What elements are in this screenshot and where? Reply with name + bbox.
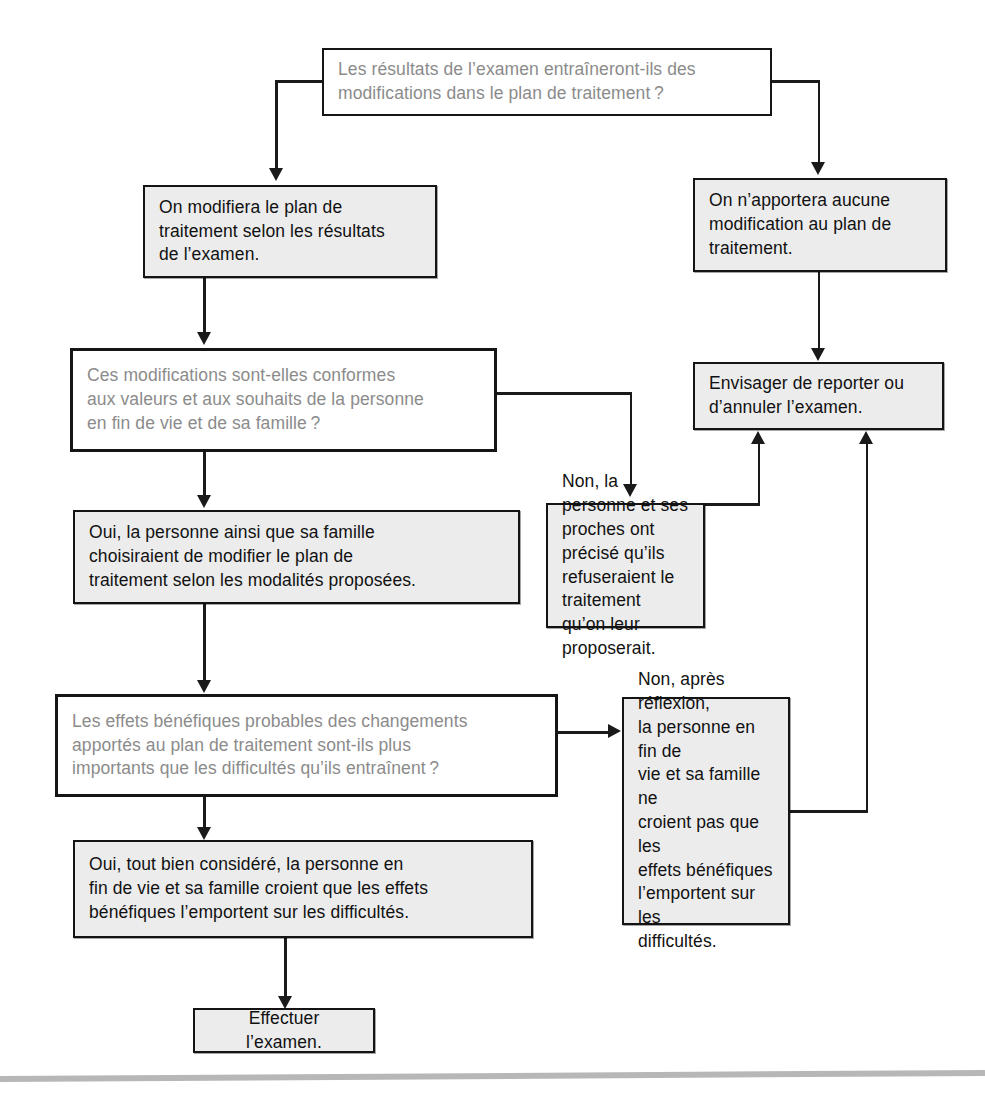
arrowhead-to-aucune-modification — [811, 162, 825, 175]
edge-q2-right-horizontal — [494, 392, 632, 395]
edge-oui-tout-bien-to-effectuer — [284, 938, 287, 998]
edge-oui-choisiraient-to-q3 — [203, 604, 206, 682]
node-answer-aucune-modification[interactable]: On n’apportera aucune modification au pl… — [693, 178, 947, 272]
edge-q3-right-horizontal — [555, 731, 610, 734]
node-answer-aucune-modification-text: On n’apportera aucune modification au pl… — [709, 189, 931, 260]
node-answer-non-apres-reflexion[interactable]: Non, après réflexion, la personne en fin… — [622, 697, 790, 925]
edge-non-refuseraient-to-envisager — [758, 443, 761, 505]
node-answer-modifiera-text: On modifiera le plan de traitement selon… — [159, 196, 421, 267]
node-answer-oui-choisiraient[interactable]: Oui, la personne ainsi que sa famille ch… — [73, 510, 520, 604]
edge-q3-to-oui-tout-bien — [203, 797, 206, 829]
edge-q1-right-horizontal — [769, 80, 820, 83]
arrowhead-to-envisager-left — [751, 431, 765, 444]
node-answer-non-refuseraient[interactable]: Non, la personne et ses proches ont préc… — [546, 503, 705, 628]
arrowhead-to-q2 — [197, 332, 211, 345]
node-answer-non-refuseraient-text: Non, la personne et ses proches ont préc… — [562, 470, 689, 660]
edge-modifiera-to-q2 — [203, 278, 206, 334]
arrowhead-to-envisager-top — [811, 348, 825, 361]
node-answer-effectuer-text: Effectuer l’examen. — [209, 1007, 359, 1055]
arrowhead-to-oui-choisiraient — [197, 495, 211, 508]
node-answer-oui-tout-bien[interactable]: Oui, tout bien considéré, la personne en… — [73, 840, 533, 938]
edge-q1-right-vertical — [818, 80, 821, 164]
edge-q1-left-horizontal — [275, 80, 325, 83]
arrowhead-to-non-apres-reflexion — [608, 724, 621, 738]
node-answer-non-apres-reflexion-text: Non, après réflexion, la personne en fin… — [638, 668, 774, 954]
arrowhead-to-envisager-right — [859, 431, 873, 444]
arrowhead-to-q3 — [197, 680, 211, 693]
edge-q1-left-vertical — [275, 80, 278, 170]
node-question-conformes[interactable]: Ces modifications sont-elles conformes a… — [70, 348, 497, 452]
edge-non-reflexion-to-envisager — [866, 443, 869, 812]
edge-q2-to-oui-choisiraient — [203, 452, 206, 497]
edge-aucune-to-envisager — [818, 272, 821, 350]
node-question-effets-benefiques-text: Les effets bénéfiques probables des chan… — [72, 710, 541, 781]
flowchart-page: Les résultats de l’examen entraîneront-i… — [0, 0, 985, 1095]
node-answer-oui-tout-bien-text: Oui, tout bien considéré, la personne en… — [89, 853, 517, 924]
node-answer-envisager[interactable]: Envisager de reporter ou d’annuler l’exa… — [693, 362, 944, 430]
page-bottom-rule — [0, 1070, 985, 1082]
node-question-conformes-text: Ces modifications sont-elles conformes a… — [87, 364, 480, 435]
node-answer-effectuer[interactable]: Effectuer l’examen. — [193, 1008, 375, 1053]
arrowhead-to-oui-tout-bien — [197, 827, 211, 840]
node-question-effets-benefiques[interactable]: Les effets bénéfiques probables des chan… — [55, 694, 558, 797]
edge-non-reflexion-horizontal — [788, 810, 868, 813]
node-answer-modifiera[interactable]: On modifiera le plan de traitement selon… — [143, 185, 437, 278]
node-answer-envisager-text: Envisager de reporter ou d’annuler l’exa… — [709, 372, 928, 420]
node-question-modifications-text: Les résultats de l’examen entraîneront-i… — [338, 58, 756, 106]
node-answer-oui-choisiraient-text: Oui, la personne ainsi que sa famille ch… — [89, 521, 504, 592]
arrowhead-to-modifiera — [269, 168, 283, 181]
node-question-modifications[interactable]: Les résultats de l’examen entraîneront-i… — [322, 48, 772, 116]
